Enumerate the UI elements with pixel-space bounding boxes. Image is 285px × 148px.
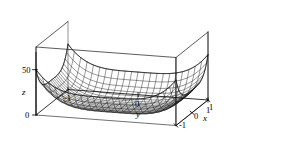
y-axis-label: y: [136, 110, 140, 119]
surface-plot-figure: z y x 0 50 -1 0 1 1 0 -1: [0, 0, 285, 148]
z-axis-label: z: [22, 88, 26, 97]
z-tick-label-0: 0: [25, 111, 29, 120]
z-tick-label-50: 50: [22, 66, 31, 75]
surface-plot-canvas: [0, 0, 285, 148]
x-tick-label-0: 0: [194, 112, 198, 121]
x-tick-label-1: 1: [209, 103, 213, 112]
x-tick-label-neg1: -1: [179, 121, 186, 130]
x-axis-label: x: [203, 114, 207, 123]
y-tick-label-neg1: -1: [64, 94, 71, 103]
y-tick-label-0: 0: [135, 100, 139, 109]
